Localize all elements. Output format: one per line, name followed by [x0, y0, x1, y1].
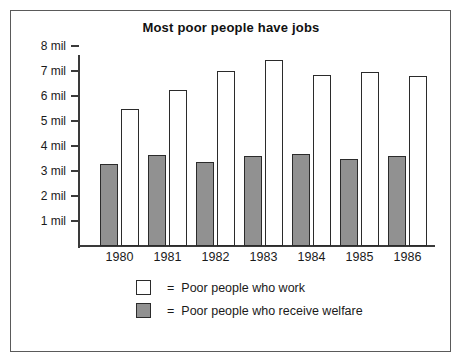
bar-work-1983 [265, 60, 283, 246]
chart-legend: = Poor people who work = Poor people who… [136, 276, 436, 322]
x-axis-label-1980: 1980 [94, 250, 146, 264]
x-axis-label-1983: 1983 [238, 250, 290, 264]
bar-welfare-1986 [388, 156, 406, 246]
y-axis-tick-label: 3 mil [20, 165, 66, 177]
y-axis-tick-label: 2 mil [20, 190, 66, 202]
y-axis-tick-label: 8 mil [20, 40, 66, 52]
bar-work-1985 [361, 72, 379, 246]
bar-welfare-1983 [244, 156, 262, 246]
legend-swatch-work [136, 280, 151, 295]
x-axis-label-1981: 1981 [142, 250, 194, 264]
chart-title: Most poor people have jobs [0, 20, 462, 35]
legend-item-welfare: = Poor people who receive welfare [136, 299, 436, 322]
x-axis-label-1984: 1984 [286, 250, 338, 264]
y-axis-tick-label: 4 mil [20, 140, 66, 152]
bar-welfare-1980 [100, 164, 118, 247]
chart-figure: Most poor people have jobs 1 mil2 mil3 m… [0, 0, 462, 363]
legend-label-work: Poor people who work [181, 281, 305, 295]
y-axis-labels: 1 mil2 mil3 mil4 mil5 mil6 mil7 mil8 mil [18, 0, 66, 260]
bar-work-1981 [169, 90, 187, 246]
bar-welfare-1981 [148, 155, 166, 246]
x-axis-label-1985: 1985 [334, 250, 386, 264]
bar-work-1980 [121, 109, 139, 247]
bar-work-1986 [409, 76, 427, 246]
y-axis-tick-label: 7 mil [20, 65, 66, 77]
y-axis-tick-label: 5 mil [20, 115, 66, 127]
legend-swatch-welfare [136, 303, 151, 318]
bar-work-1982 [217, 71, 235, 246]
legend-item-work: = Poor people who work [136, 276, 436, 299]
legend-equals-work: = [167, 281, 174, 295]
y-axis-tick-label: 1 mil [20, 215, 66, 227]
y-axis-tick [71, 45, 79, 47]
legend-equals-welfare: = [167, 304, 174, 318]
y-axis-line [78, 55, 80, 248]
x-axis-label-1982: 1982 [190, 250, 242, 264]
x-axis-label-1986: 1986 [382, 250, 434, 264]
legend-label-welfare: Poor people who receive welfare [181, 304, 362, 318]
y-axis-tick-label: 6 mil [20, 90, 66, 102]
bar-welfare-1985 [340, 159, 358, 247]
bar-work-1984 [313, 75, 331, 246]
bar-welfare-1984 [292, 154, 310, 247]
bar-welfare-1982 [196, 162, 214, 246]
